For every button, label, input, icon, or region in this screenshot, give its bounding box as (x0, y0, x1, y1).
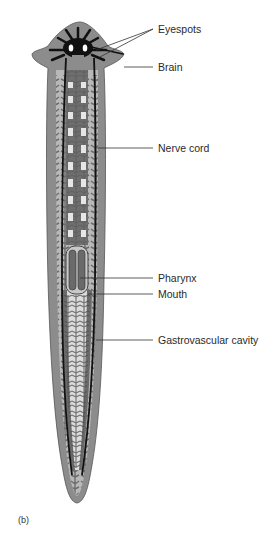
label-eyespots: Eyespots (158, 23, 201, 35)
label-mouth: Mouth (158, 288, 187, 300)
eyespot-left (69, 44, 74, 51)
eyespot-right (83, 44, 88, 51)
planarian-illustration (0, 0, 268, 545)
label-brain: Brain (158, 61, 183, 73)
planarian-diagram: Eyespots Brain Nerve cord Pharynx Mouth … (0, 0, 268, 545)
panel-label: (b) (18, 515, 29, 525)
label-gastrovascular-cavity: Gastrovascular cavity (158, 334, 258, 346)
label-nerve-cord: Nerve cord (158, 142, 209, 154)
label-pharynx: Pharynx (158, 272, 197, 284)
pharynx-structure (66, 246, 88, 294)
